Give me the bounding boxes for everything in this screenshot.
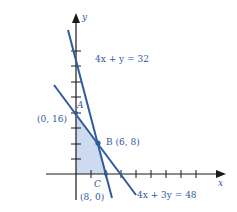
point-a-coords: (0, 16) xyxy=(37,114,67,124)
linear-programming-graph: y x 4x + y = 32 4x + 3y = 48 A (0, 16) B… xyxy=(0,0,237,212)
point-c-coords: (8, 0) xyxy=(80,192,104,202)
point-b xyxy=(95,140,100,145)
point-b-label: B (6, 8) xyxy=(106,137,140,147)
y-axis-label: y xyxy=(81,12,88,22)
point-c xyxy=(104,172,108,176)
line-label-2: 4x + 3y = 48 xyxy=(137,190,197,200)
point-c-label: C xyxy=(94,179,101,189)
point-a xyxy=(74,111,78,115)
x-axis-label: x xyxy=(218,178,223,188)
y-axis-arrow-icon xyxy=(72,13,80,23)
point-a-label: A xyxy=(76,100,84,110)
line-label-1: 4x + y = 32 xyxy=(95,54,149,64)
x-axis-arrow-icon xyxy=(216,170,226,178)
